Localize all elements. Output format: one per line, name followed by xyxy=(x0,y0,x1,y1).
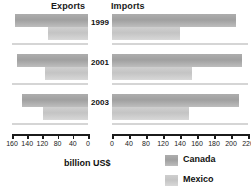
axis-tick-label: 160 xyxy=(191,140,203,147)
exports-panel xyxy=(12,12,88,134)
imports-group-2003 xyxy=(112,94,248,130)
right-axis-tick-labels: 04080120140160180200220 xyxy=(100,140,251,150)
axis-tick-label: 0 xyxy=(110,140,114,147)
left-axis-tick-labels: 16014012080400 xyxy=(0,140,100,150)
axis-tick xyxy=(231,134,233,139)
axis-tick-label: 80 xyxy=(142,140,150,147)
axis-tick xyxy=(112,134,114,139)
axis-tick xyxy=(42,134,44,139)
axis-tick-label: 0 xyxy=(86,140,90,147)
bar-imports-canada-2001 xyxy=(112,54,242,67)
bar-exports-mexico-2003 xyxy=(43,107,88,120)
legend-swatch-mexico-icon xyxy=(165,175,178,186)
axis-tick xyxy=(27,134,29,139)
axis-tick xyxy=(180,134,182,139)
exports-group-2003 xyxy=(12,94,88,130)
column-header-exports: Exports xyxy=(51,1,85,11)
axis-tick xyxy=(163,134,165,139)
column-header-imports: Imports xyxy=(111,1,145,11)
axis-tick-label: 200 xyxy=(225,140,237,147)
year-label-2003: 2003 xyxy=(88,98,112,107)
bar-imports-mexico-1999 xyxy=(112,27,180,40)
year-label-1999: 1999 xyxy=(88,18,112,27)
exports-group-2001 xyxy=(12,54,88,90)
axis-tick-label: 40 xyxy=(69,140,77,147)
bar-imports-mexico-2001 xyxy=(112,67,192,80)
axis-tick-label: 180 xyxy=(208,140,220,147)
baseline-1999-left xyxy=(12,43,88,45)
baseline-1999-right xyxy=(112,43,248,45)
axis-tick xyxy=(12,134,14,139)
legend-swatch-canada-icon xyxy=(165,155,178,166)
axis-tick xyxy=(73,134,75,139)
exports-group-1999 xyxy=(12,14,88,50)
axis-tick xyxy=(146,134,148,139)
axis-tick-label: 120 xyxy=(157,140,169,147)
baseline-2003-right xyxy=(112,123,248,125)
bar-exports-mexico-1999 xyxy=(48,27,88,40)
bar-exports-canada-2003 xyxy=(22,94,89,107)
legend-label-canada: Canada xyxy=(183,154,216,164)
baseline-2001-right xyxy=(112,83,248,85)
axis-tick xyxy=(58,134,60,139)
axis-tick-label: 140 xyxy=(21,140,33,147)
axis-tick-label: 80 xyxy=(54,140,62,147)
axis-title: billion US$ xyxy=(64,158,111,168)
axis-tick-label: 220 xyxy=(242,140,251,147)
bar-imports-canada-2003 xyxy=(112,94,239,107)
butterfly-bar-chart: Exports Imports xyxy=(0,0,251,193)
imports-panel xyxy=(112,12,248,134)
legend-label-mexico: Mexico xyxy=(183,174,214,184)
baseline-2003-left xyxy=(12,123,88,125)
axis-tick-label: 140 xyxy=(174,140,186,147)
bar-exports-mexico-2001 xyxy=(45,67,88,80)
axis-tick xyxy=(248,134,250,139)
axis-tick-label: 40 xyxy=(125,140,133,147)
baseline-2001-left xyxy=(12,83,88,85)
axis-tick-label: 160 xyxy=(6,140,18,147)
year-label-2001: 2001 xyxy=(88,58,112,67)
axis-tick xyxy=(88,134,90,139)
axis-tick-label: 120 xyxy=(37,140,49,147)
bar-imports-mexico-2003 xyxy=(112,107,189,120)
bar-exports-canada-1999 xyxy=(15,14,88,27)
axis-tick xyxy=(197,134,199,139)
imports-group-1999 xyxy=(112,14,248,50)
axis-tick xyxy=(214,134,216,139)
bar-imports-canada-1999 xyxy=(112,14,236,27)
axis-tick xyxy=(129,134,131,139)
imports-group-2001 xyxy=(112,54,248,90)
left-axis-line xyxy=(12,134,88,136)
bar-exports-canada-2001 xyxy=(17,54,88,67)
